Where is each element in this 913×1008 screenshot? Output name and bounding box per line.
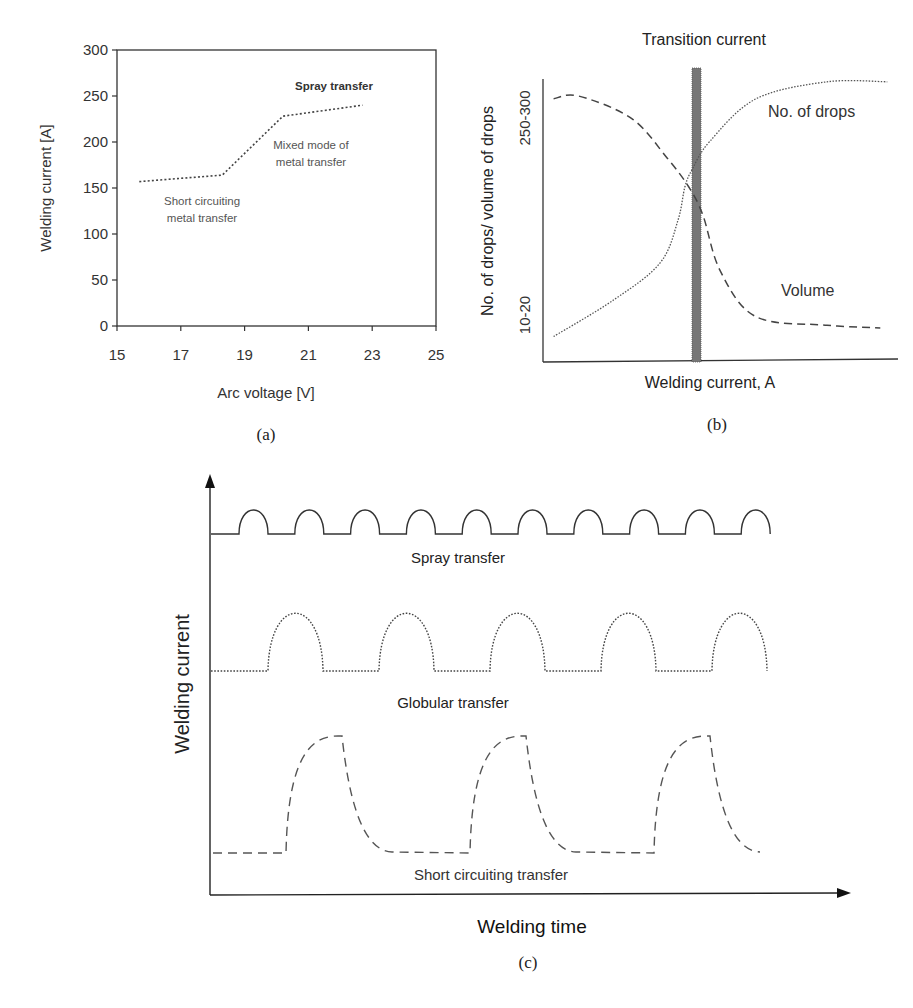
- panel-a-annotation-mixed-1: Mixed mode of: [273, 139, 349, 151]
- panel-c-label-spray: Spray transfer: [411, 549, 505, 566]
- panel-a-y-tick-label: 0: [100, 317, 108, 334]
- panel-c-x-axis-arrow-icon: [837, 888, 851, 898]
- panel-b: Transition current No. of drops Volume 2…: [479, 31, 898, 434]
- panel-a-plot-frame: [117, 50, 436, 326]
- panel-c-y-axis-label: Welding current: [171, 614, 193, 754]
- panel-a-annotation-short-1: Short circuiting: [164, 195, 240, 207]
- panel-a-y-tick-label: 200: [83, 133, 108, 150]
- panel-a-y-tick-label: 250: [83, 87, 108, 104]
- panel-c-x-axis-label: Welding time: [477, 916, 586, 937]
- panel-a-y-ticks: 050100150200250300: [83, 41, 117, 334]
- panel-a-x-tick-label: 21: [300, 346, 317, 363]
- panel-c-x-axis: [210, 893, 840, 895]
- panel-b-y-tick-high: 250-300: [516, 90, 533, 145]
- panel-b-legend-volume: Volume: [781, 282, 834, 299]
- panel-a-x-tick-label: 23: [364, 346, 381, 363]
- panel-c-spray-waveform: [211, 510, 770, 534]
- panel-a-x-tick-label: 19: [236, 346, 253, 363]
- panel-a-annotation-mixed-2: metal transfer: [276, 156, 346, 168]
- panel-c-caption: (c): [519, 953, 538, 972]
- panel-c-short-circuit-waveform: [213, 736, 760, 853]
- panel-a-y-tick-label: 100: [83, 225, 108, 242]
- panel-b-title: Transition current: [642, 31, 766, 48]
- panel-b-x-axis: [543, 359, 898, 362]
- panel-a-x-tick-label: 25: [428, 346, 445, 363]
- panel-b-transition-bar: [692, 68, 701, 362]
- panel-a-caption: (a): [257, 425, 276, 444]
- panel-c-label-short: Short circuiting transfer: [414, 866, 568, 883]
- panel-a: 050100150200250300 151719212325 Spray tr…: [37, 41, 444, 444]
- panel-c: Spray transfer Globular transfer Short c…: [171, 474, 851, 972]
- panel-a-y-tick-label: 50: [91, 271, 108, 288]
- figure: 050100150200250300 151719212325 Spray tr…: [0, 0, 913, 1008]
- panel-b-legend-drops: No. of drops: [768, 103, 855, 120]
- panel-a-annotation-spray: Spray transfer: [295, 80, 374, 92]
- panel-a-annotation-short-2: metal transfer: [167, 212, 237, 224]
- panel-a-y-tick-label: 300: [83, 41, 108, 58]
- panel-a-x-ticks: 151719212325: [109, 326, 445, 363]
- panel-b-y-tick-low: 10-20: [516, 296, 533, 334]
- panel-b-y-axis-label: No. of drops/ volume of drops: [479, 106, 496, 316]
- panel-b-caption: (b): [707, 415, 727, 434]
- panel-c-y-axis-arrow-icon: [205, 474, 215, 488]
- panel-a-x-tick-label: 17: [172, 346, 189, 363]
- panel-a-x-axis-label: Arc voltage [V]: [217, 384, 315, 401]
- panel-a-y-tick-label: 150: [83, 179, 108, 196]
- panel-a-x-tick-label: 15: [109, 346, 126, 363]
- panel-c-globular-waveform: [211, 613, 767, 671]
- panel-b-x-axis-label: Welding current, A: [645, 374, 776, 391]
- panel-c-label-globular: Globular transfer: [397, 694, 509, 711]
- panel-a-y-axis-label: Welding current [A]: [37, 124, 54, 251]
